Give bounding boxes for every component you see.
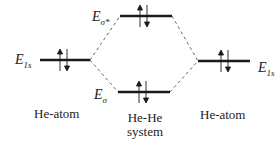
energy-subscript: 1s <box>24 60 32 70</box>
energy-symbol: E <box>258 60 267 75</box>
molecule-caption-line2: system <box>119 125 171 139</box>
energy-symbol: E <box>15 52 24 67</box>
left-atom-caption: He-atom <box>34 107 79 121</box>
left-1s-energy-label: E1s <box>15 53 32 70</box>
correlation-lines <box>90 16 198 92</box>
energy-symbol: E <box>94 87 103 102</box>
molecule-caption-line1: He-He <box>119 111 171 125</box>
sigma-energy-label: Eσ <box>94 88 107 105</box>
energy-subscript: σ* <box>101 17 110 27</box>
right-atom-caption: He-atom <box>200 108 245 122</box>
energy-subscript: σ <box>103 95 107 105</box>
energy-symbol: E <box>92 9 101 24</box>
sigma-star-energy-label: Eσ* <box>92 10 110 27</box>
molecule-caption: He-He system <box>119 111 171 139</box>
right-1s-energy-label: E1s <box>258 61 275 78</box>
energy-subscript: 1s <box>267 68 275 78</box>
